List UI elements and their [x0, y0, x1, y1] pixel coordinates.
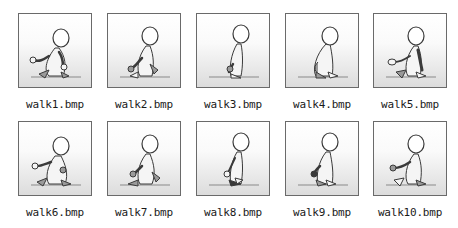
- sprite-filename: walk9.bmp: [277, 206, 367, 219]
- sprite-thumbnail-walk6[interactable]: [18, 121, 92, 196]
- walking-figure-icon: [286, 14, 358, 87]
- sprite-filename: walk6.bmp: [10, 206, 100, 219]
- sprite-cell: walk3.bmp: [188, 13, 278, 123]
- sprite-thumbnail-walk8[interactable]: [196, 121, 270, 196]
- sprite-thumbnail-walk2[interactable]: [107, 13, 181, 88]
- sprite-filename: walk3.bmp: [188, 98, 278, 111]
- walking-figure-icon: [19, 122, 91, 195]
- sprite-filename: walk8.bmp: [188, 206, 278, 219]
- walking-figure-icon: [286, 122, 358, 195]
- sprite-thumbnail-walk5[interactable]: [373, 13, 447, 88]
- walk-cycle-sprite-grid: walk1.bmp walk2.bmp: [0, 0, 458, 228]
- sprite-cell: walk10.bmp: [365, 121, 455, 228]
- sprite-thumbnail-walk10[interactable]: [373, 121, 447, 196]
- sprite-thumbnail-walk9[interactable]: [285, 121, 359, 196]
- sprite-filename: walk2.bmp: [99, 98, 189, 111]
- walking-figure-icon: [19, 14, 91, 87]
- sprite-cell: walk8.bmp: [188, 121, 278, 228]
- sprite-thumbnail-walk7[interactable]: [107, 121, 181, 196]
- walking-figure-icon: [197, 14, 269, 87]
- sprite-cell: walk1.bmp: [10, 13, 100, 123]
- sprite-filename: walk10.bmp: [365, 206, 455, 219]
- sprite-filename: walk4.bmp: [277, 98, 367, 111]
- sprite-cell: walk2.bmp: [99, 13, 189, 123]
- sprite-filename: walk5.bmp: [365, 98, 455, 111]
- sprite-cell: walk9.bmp: [277, 121, 367, 228]
- sprite-filename: walk1.bmp: [10, 98, 100, 111]
- sprite-cell: walk5.bmp: [365, 13, 455, 123]
- walking-figure-icon: [374, 122, 446, 195]
- sprite-cell: walk4.bmp: [277, 13, 367, 123]
- walking-figure-icon: [374, 14, 446, 87]
- sprite-thumbnail-walk4[interactable]: [285, 13, 359, 88]
- walking-figure-icon: [108, 14, 180, 87]
- sprite-thumbnail-walk1[interactable]: [18, 13, 92, 88]
- sprite-filename: walk7.bmp: [99, 206, 189, 219]
- sprite-cell: walk7.bmp: [99, 121, 189, 228]
- sprite-thumbnail-walk3[interactable]: [196, 13, 270, 88]
- walking-figure-icon: [197, 122, 269, 195]
- sprite-cell: walk6.bmp: [10, 121, 100, 228]
- walking-figure-icon: [108, 122, 180, 195]
